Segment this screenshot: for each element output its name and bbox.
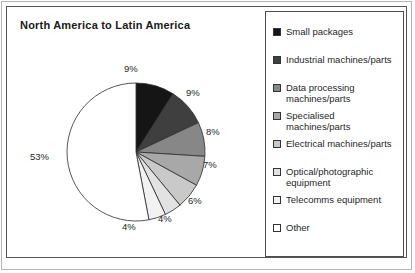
legend-swatch-icon [273, 140, 281, 148]
legend-item[interactable]: Telecomms equipment [273, 194, 403, 205]
legend-item[interactable]: Specialised machines/parts [273, 110, 403, 132]
legend-swatch-icon [273, 112, 281, 120]
legend-item[interactable]: Electrical machines/parts [273, 138, 403, 149]
legend-item-label: Other [286, 222, 310, 233]
pie-slice-percent-label: 7% [203, 159, 217, 170]
pie-slice-percent-label: 4% [122, 221, 136, 232]
legend-item-label: Data processing machines/parts [286, 82, 355, 104]
pie-slice-percent-label: 9% [124, 63, 138, 74]
pie-slice-percent-label: 8% [206, 126, 220, 137]
legend-swatch-icon [273, 196, 281, 204]
legend-item-label: Electrical machines/parts [286, 138, 392, 149]
legend-item[interactable]: Other [273, 222, 403, 233]
legend-item-label: Telecomms equipment [286, 194, 381, 205]
legend-swatch-icon [273, 168, 281, 176]
pie-slice-percent-label: 6% [188, 195, 202, 206]
figure-root: North America to Latin America 9%9%8%7%6… [0, 0, 415, 273]
legend-item[interactable]: Small packages [273, 26, 403, 37]
chart-legend: Small packagesIndustrial machines/partsD… [265, 11, 404, 257]
legend-item-label: Small packages [286, 26, 353, 37]
legend-item-label: Specialised machines/parts [286, 110, 350, 132]
legend-item-label: Optical/photographic equipment [286, 166, 373, 188]
legend-swatch-icon [273, 28, 281, 36]
legend-item[interactable]: Data processing machines/parts [273, 82, 403, 104]
chart-title: North America to Latin America [20, 19, 190, 31]
pie-slice-percent-label: 9% [186, 87, 200, 98]
legend-swatch-icon [273, 56, 281, 64]
legend-item[interactable]: Optical/photographic equipment [273, 166, 403, 188]
legend-swatch-icon [273, 84, 281, 92]
legend-item-label: Industrial machines/parts [286, 54, 392, 65]
pie-slice-percent-label: 4% [158, 213, 172, 224]
legend-swatch-icon [273, 224, 281, 232]
pie-chart: 9%9%8%7%6%4%4%53% [10, 55, 260, 255]
pie-slice-percent-label: 53% [30, 151, 49, 162]
legend-item[interactable]: Industrial machines/parts [273, 54, 403, 65]
